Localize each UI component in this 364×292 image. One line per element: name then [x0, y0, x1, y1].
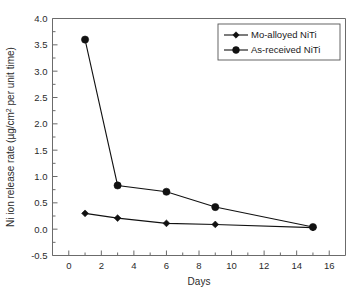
x-tick-label: 0 — [66, 260, 71, 271]
x-tick-label: 16 — [324, 260, 335, 271]
chart-legend: Mo-alloyed NiTiAs-received NiTi — [218, 24, 340, 60]
x-tick-label: 4 — [131, 260, 136, 271]
y-tick-label: 2.0 — [34, 118, 47, 129]
x-tick-label: 10 — [226, 260, 237, 271]
chart-figure: -0.50.00.51.01.52.02.53.03.54.0 02468101… — [0, 0, 364, 292]
y-tick-label: 3.5 — [34, 39, 47, 50]
x-tick-label: 6 — [164, 260, 169, 271]
y-tick-label: 1.5 — [34, 145, 47, 156]
x-tick-label: 12 — [259, 260, 270, 271]
y-tick-label: 2.5 — [34, 92, 47, 103]
y-tick-label: 0.0 — [34, 224, 47, 235]
x-tick-label: 8 — [196, 260, 201, 271]
data-point — [309, 223, 316, 230]
legend-label: As-received NiTi — [251, 44, 320, 55]
x-tick-label: 2 — [99, 260, 104, 271]
y-axis-title: Ni ion release rate (µg/cm2 per unit tim… — [5, 47, 17, 227]
data-point — [114, 182, 121, 189]
x-axis-title: Days — [188, 276, 211, 287]
y-tick-label: 4.0 — [34, 13, 47, 24]
x-tick-label: 14 — [291, 260, 302, 271]
y-tick-label: 0.5 — [34, 197, 47, 208]
y-tick-label: 1.0 — [34, 171, 47, 182]
y-tick-label: 3.0 — [34, 66, 47, 77]
y-tick-label: -0.5 — [31, 250, 47, 261]
line-chart: -0.50.00.51.01.52.02.53.03.54.0 02468101… — [0, 0, 364, 292]
legend-label: Mo-alloyed NiTi — [251, 29, 317, 40]
data-point — [163, 188, 170, 195]
data-point — [212, 203, 219, 210]
legend-marker-circle-icon — [233, 47, 240, 54]
data-point — [81, 36, 88, 43]
